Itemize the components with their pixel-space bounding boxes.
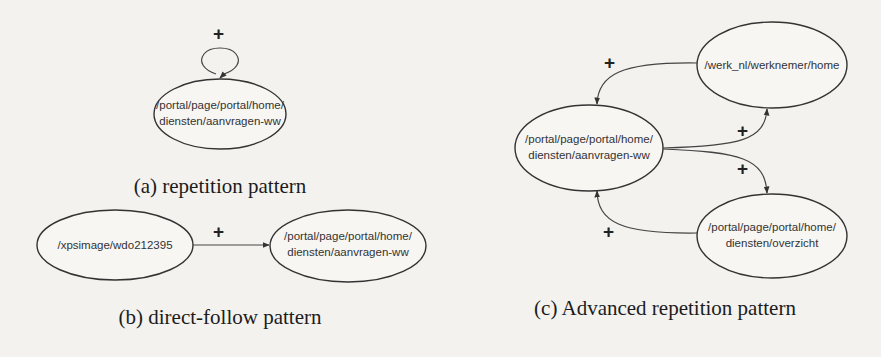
node-label-line1: /portal/page/portal/home/ [708,221,837,233]
panel-a-repetition: + /portal/page/portal/home/ diensten/aan… [134,23,307,198]
caption-c: (c) Advanced repetition pattern [534,296,796,320]
figure-canvas: + /portal/page/portal/home/ diensten/aan… [0,0,881,357]
edge-aanvragen-to-home [663,109,767,148]
edge-aanvragen-to-overzicht [663,149,767,193]
node-label-line2: diensten/aanvragen-ww [528,149,650,161]
node-overzicht [697,194,847,278]
node-label-line1: /portal/page/portal/home/ [156,99,285,111]
edge-label-plus: + [737,158,748,179]
node-aanvragen-ww [515,105,663,191]
panel-b-direct-follow: /xpsimage/wdo212395 /portal/page/portal/… [37,210,426,329]
caption-a: (a) repetition pattern [134,174,307,198]
node-label-line2: diensten/overzicht [726,237,819,249]
self-loop-edge [202,48,239,78]
caption-b: (b) direct-follow pattern [119,305,322,329]
node-label-line2: diensten/aanvragen-ww [159,115,281,127]
node-label-line1: /werk_nl/werknemer/home [705,59,840,71]
edge-label-plus: + [213,221,224,242]
node-label-line1: /portal/page/portal/home/ [284,230,413,242]
edge-label-plus: + [604,52,615,73]
node-label-line2: diensten/aanvragen-ww [287,246,409,258]
node-label-line1: /xpsimage/wdo212395 [57,239,172,251]
edge-label-plus: + [213,23,224,44]
node-label-line1: /portal/page/portal/home/ [525,133,654,145]
node-aanvragen-ww [154,79,286,149]
edge-label-plus: + [737,120,748,141]
panel-c-advanced-repetition: /werk_nl/werknemer/home /portal/page/por… [515,22,847,320]
edge-label-plus: + [603,221,614,242]
